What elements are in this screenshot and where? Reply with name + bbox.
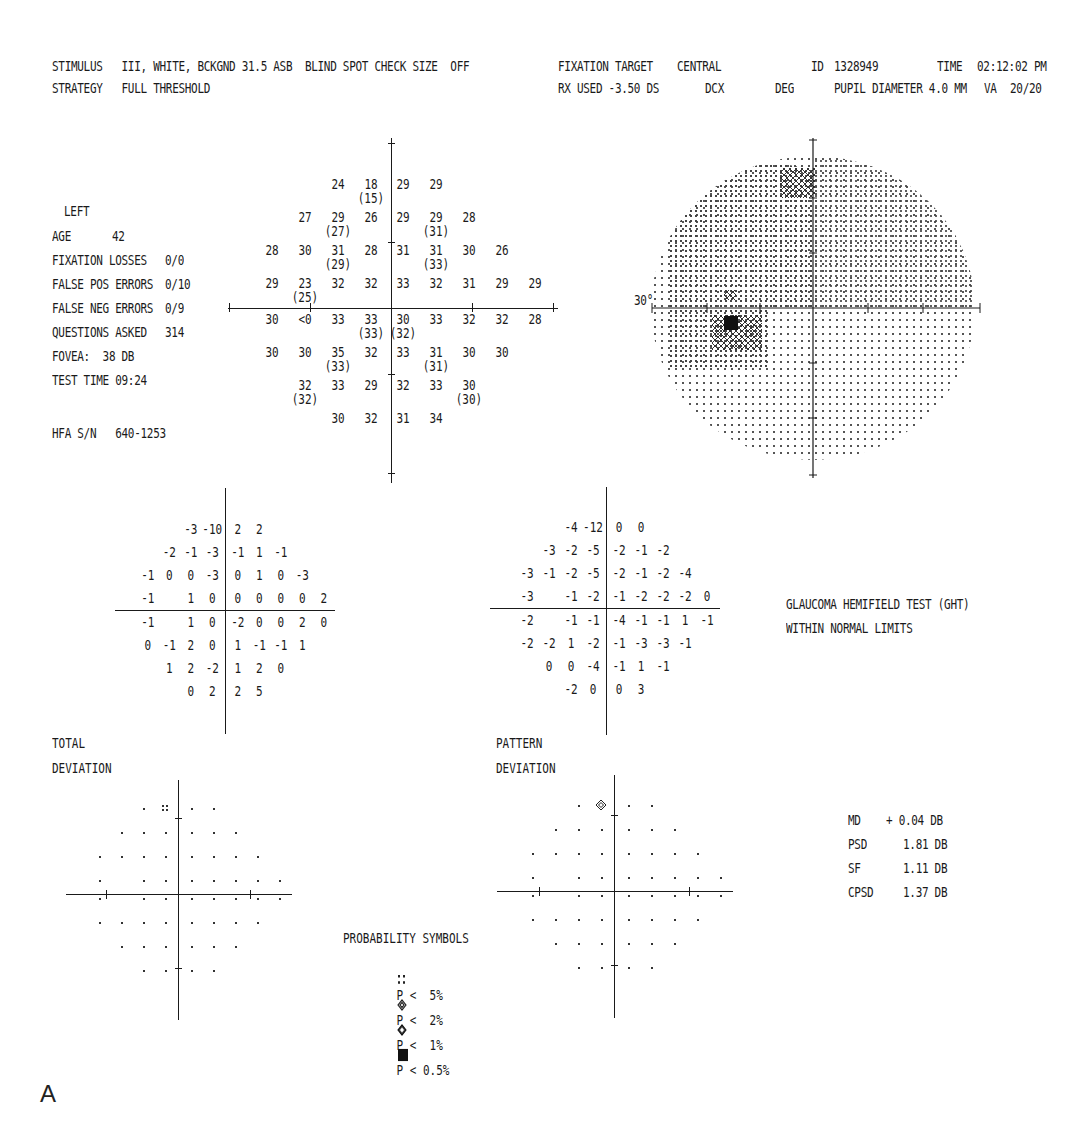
threshold-cell: 32 [356,277,386,291]
probability-normal-dot [651,877,653,879]
deviation-value: -1 [607,635,631,651]
threshold-cell: 30 [257,346,287,360]
axis-tick [553,303,554,312]
probability-normal-dot [578,829,580,831]
probability-normal-dot [143,808,145,810]
threshold-cell: 30 [487,346,517,360]
threshold-cell: 33 [323,379,353,393]
threshold-cell: <0 [290,313,320,327]
probability-normal-dot [191,832,193,834]
threshold-cell: 30 [257,313,287,327]
deviation-value: 0 [269,614,293,630]
axis-tick [388,374,395,375]
age-value: 42 [112,230,125,244]
probability-normal-dot [578,877,580,879]
total-label-2: DEVIATION [52,760,112,776]
probability-normal-dot [213,880,215,882]
probability-normal-dot [191,946,193,948]
legend-title: PROBABILITY SYMBOLS [343,930,469,946]
probability-normal-dot [697,853,699,855]
cpsd-value: 1.37 DB [903,886,947,900]
threshold-retest-value: (29) [323,258,353,272]
psd-value: 1.81 DB [903,838,947,852]
threshold-cell: 33 [421,313,451,327]
threshold-retest-value: (27) [323,225,353,239]
deviation-value: 0 [581,681,605,697]
deviation-value: -3 [200,567,224,583]
threshold-cell: 32(32) [290,379,320,407]
probability-normal-dot [628,853,630,855]
deviation-value: 0 [290,590,314,606]
deviation-value: -1 [269,637,293,653]
probability-normal-dot [601,967,603,969]
probability-normal-dot [555,919,557,921]
probability-normal-dot [674,943,676,945]
deviation-value: -1 [651,658,675,674]
deviation-value: -4 [581,658,605,674]
fixation-losses-label: FIXATION LOSSES [52,254,147,268]
threshold-cell: 31(29) [323,244,353,272]
probability-normal-dot [651,829,653,831]
probability-normal-dot [191,856,193,858]
deviation-value: 0 [269,590,293,606]
probability-normal-dot [279,880,281,882]
probability-normal-dot [143,970,145,972]
probability-normal-dot [628,829,630,831]
ght-result-text: WITHIN NORMAL LIMITS [786,622,912,636]
tdp-y-axis [178,780,179,1020]
deviation-value: 1 [673,612,697,628]
threshold-cell: 33 [388,346,418,360]
deviation-value: 0 [629,519,653,535]
fixation-target-value: CENTRAL [677,60,721,74]
deviation-value: -2 [673,588,697,604]
axis-tick [175,818,182,819]
threshold-cell: 26 [356,211,386,225]
deviation-value: 3 [629,681,653,697]
probability-normal-dot [99,856,101,858]
deviation-value: 0 [247,614,271,630]
deviation-value: -2 [515,635,539,651]
probability-normal-dot [213,970,215,972]
axis-tick [472,303,473,312]
threshold-cell: 31(33) [421,244,451,272]
threshold-cell: 31 [388,244,418,258]
threshold-cell: 31 [454,277,484,291]
probability-p5-symbol [162,805,164,807]
deviation-value: 0 [695,588,719,604]
deviation-value: 1 [179,590,203,606]
deviation-value: 1 [179,614,203,630]
deviation-value: -1 [607,588,631,604]
deviation-value: -2 [581,635,605,651]
probability-normal-dot [651,805,653,807]
deviation-value: -1 [537,565,561,581]
probability-normal-dot [121,832,123,834]
deviation-value: -3 [179,521,203,537]
probability-normal-dot [555,853,557,855]
probability-normal-dot [213,808,215,810]
questions-asked-value: 314 [165,326,184,340]
threshold-cell: 24 [323,178,353,192]
deviation-value: 0 [559,658,583,674]
probability-normal-dot [121,922,123,924]
deviation-value: 0 [247,590,271,606]
probability-normal-dot [651,853,653,855]
threshold-retest-value: (32) [388,327,418,341]
deviation-value: -2 [607,542,631,558]
threshold-cell: 29 [388,178,418,192]
probability-normal-dot [651,895,653,897]
probability-normal-dot [257,880,259,882]
deviation-value: 0 [607,681,631,697]
false-pos-label: FALSE POS ERRORS [52,278,153,292]
deviation-value: 1 [559,635,583,651]
deviation-value: 1 [290,637,314,653]
deviation-value: 0 [200,590,224,606]
deviation-value: -3 [629,635,653,651]
threshold-cell: 30 [454,346,484,360]
solid-square-icon [397,1049,409,1062]
probability-normal-dot [532,877,534,879]
probability-normal-dot [191,970,193,972]
deviation-value: 1 [629,658,653,674]
threshold-cell: 33(33) [356,313,386,341]
deviation-value: -3 [537,542,561,558]
deviation-value: -2 [157,544,181,560]
